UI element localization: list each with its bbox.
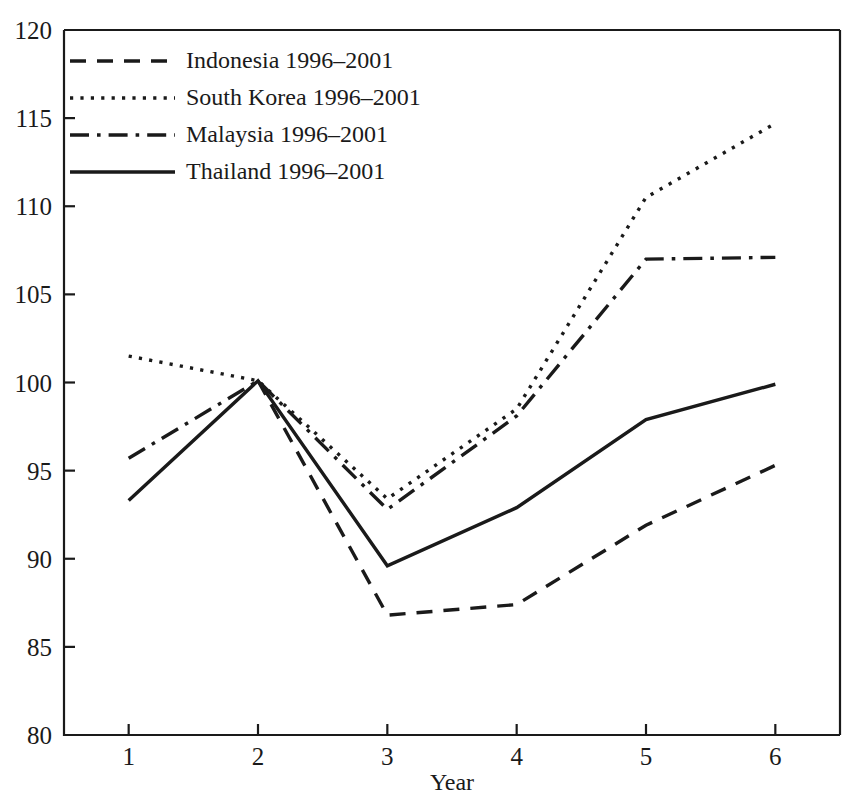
- legend-label: Thailand 1996–2001: [186, 158, 385, 184]
- y-axis-ticks: 80859095100105110115120: [15, 17, 76, 749]
- axis-lines: [64, 30, 840, 735]
- plot-frame: [64, 30, 840, 735]
- y-tick-label: 85: [27, 634, 52, 661]
- y-tick-label: 95: [27, 458, 52, 485]
- series-line: [129, 381, 776, 566]
- legend-label: Indonesia 1996–2001: [186, 47, 393, 73]
- y-tick-label: 100: [15, 370, 53, 397]
- y-tick-label: 120: [15, 17, 53, 44]
- series-line: [129, 257, 776, 509]
- y-tick-label: 110: [15, 193, 52, 220]
- x-axis-ticks: 123456: [122, 724, 781, 770]
- y-tick-label: 80: [27, 722, 52, 749]
- legend-label: Malaysia 1996–2001: [186, 121, 388, 147]
- series-lines: [129, 123, 776, 615]
- y-tick-label: 115: [15, 105, 52, 132]
- x-tick-label: 1: [122, 743, 135, 770]
- y-tick-label: 90: [27, 546, 52, 573]
- chart-canvas: 80859095100105110115120 123456 Indonesia…: [0, 0, 848, 798]
- x-tick-label: 5: [640, 743, 653, 770]
- x-tick-label: 3: [381, 743, 394, 770]
- line-chart: 80859095100105110115120 123456 Indonesia…: [0, 0, 848, 798]
- x-tick-label: 6: [769, 743, 782, 770]
- chart-legend: Indonesia 1996–2001South Korea 1996–2001…: [70, 47, 421, 184]
- x-axis-title: Year: [430, 769, 474, 795]
- y-tick-label: 105: [15, 281, 53, 308]
- x-tick-label: 4: [510, 743, 523, 770]
- legend-label: South Korea 1996–2001: [186, 84, 421, 110]
- x-tick-label: 2: [252, 743, 265, 770]
